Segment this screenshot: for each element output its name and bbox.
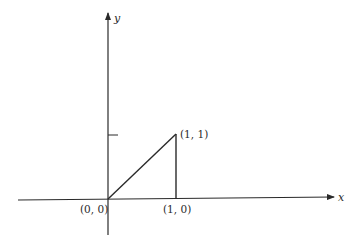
point-label-1-0: (1, 0)	[163, 203, 191, 215]
hypotenuse-line	[108, 134, 176, 199]
x-axis-label: x	[338, 191, 345, 204]
coordinate-diagram: y x (0, 0) (1, 0) (1, 1)	[0, 0, 354, 250]
point-label-1-1: (1, 1)	[180, 128, 208, 140]
y-axis-label: y	[113, 12, 121, 25]
point-label-origin: (0, 0)	[80, 203, 108, 215]
